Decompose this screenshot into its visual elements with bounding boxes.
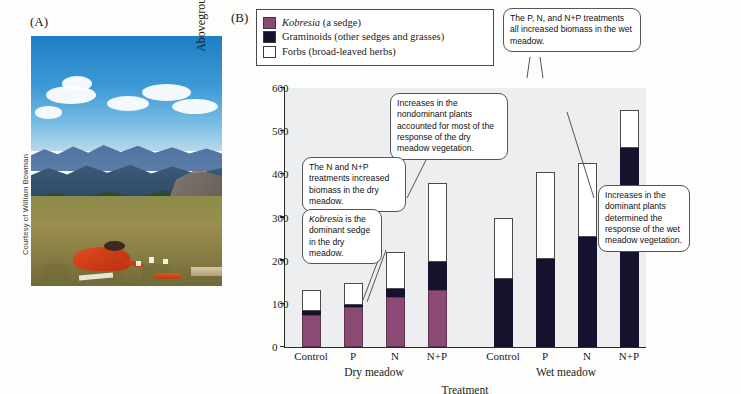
cloud-icon [142,84,192,102]
segment-forbs [494,218,513,280]
segment-kobresia [386,297,405,347]
x-axis-label: Treatment [442,384,489,394]
group-label-wet-meadow: Wet meadow [536,366,596,378]
segment-kobresia [302,315,321,347]
bar-dry-p [344,283,363,347]
panel-b-chart: (B) Kobresia (a sedge) Graminoids (other… [230,0,741,394]
legend-rest-kobresia: (a sedge) [320,17,361,28]
callout-kobresia-italic: Kobresia [309,214,343,224]
segment-forbs [428,183,447,262]
segment-graminoids [386,289,405,297]
x-axis-tick-label: N [583,350,591,362]
y-axis-tick-label: 600 [272,82,275,94]
cloud-icon [172,99,218,114]
bar-dry-nplusp [428,183,447,347]
legend-label-forbs: Forbs (broad-leaved herbs) [282,46,396,58]
segment-forbs [344,283,363,305]
legend-label-kobresia: Kobresia (a sedge) [282,17,361,29]
panel-a-label: (A) [30,14,48,30]
segment-kobresia [344,307,363,347]
segment-forbs [578,163,597,237]
segment-graminoids [578,237,597,347]
legend-italic-kobresia: Kobresia [282,17,320,28]
y-axis-tick-label: 0 [272,341,275,353]
x-axis-tick-label: P [542,350,548,362]
legend-item-forbs: Forbs (broad-leaved herbs) [263,46,487,58]
callout-wet-meadow-top-text: The P, N, and N+P treatments all increas… [510,13,632,46]
field-equipment-bag [153,273,182,279]
callout-dominant-plants-wet: Increases in the dominant plants determi… [598,185,690,252]
segment-graminoids [428,262,447,290]
bar-dry-control [302,290,321,347]
leader-wet-top-a [527,57,530,78]
callout-wet-meadow-top: The P, N, and N+P treatments all increas… [503,8,641,52]
legend-item-graminoids: Graminoids (other sedges and grasses) [263,31,487,43]
group-label-dry-meadow: Dry meadow [344,366,404,378]
callout-n-np-dry-meadow-text: The N and N+P treatments increased bioma… [309,162,389,206]
segment-forbs [620,110,639,148]
leader-wet-top-b [540,57,543,78]
researcher-head [104,241,125,251]
callout-dominant-plants-wet-text: Increases in the dominant plants determi… [605,190,682,245]
segment-forbs [302,290,321,311]
x-axis-tick-label: N+P [619,350,639,362]
plot-marker-flag [149,257,154,262]
y-axis-tick-label: 500 [272,125,275,137]
chart-legend: Kobresia (a sedge) Graminoids (other sed… [256,9,494,66]
y-axis-label: Aboveground biomass (g/m²) [194,0,209,96]
plot-marker-flag [163,259,168,264]
callout-nondominant-plants: Increases in the nondominant plants acco… [390,93,508,160]
legend-item-kobresia: Kobresia (a sedge) [263,17,487,29]
y-axis-tick-label: 200 [272,255,275,267]
bar-wet-control [494,218,513,348]
segment-graminoids [494,279,513,347]
segment-kobresia [428,290,447,347]
segment-forbs [536,172,555,258]
alpine-meadow-ground [31,196,222,286]
cloud-icon [35,106,62,119]
kobresia-swatch [263,17,276,29]
panel-b-label: (B) [231,10,248,26]
segment-graminoids [344,305,363,307]
y-axis-tick-label: 100 [272,298,275,310]
segment-graminoids [536,259,555,347]
x-axis-tick-label: P [350,350,356,362]
segment-forbs [386,252,405,288]
callout-n-np-dry-meadow: The N and N+P treatments increased bioma… [302,157,406,212]
graminoids-swatch [263,31,276,43]
y-axis-tick [280,346,285,347]
field-equipment-box [191,267,222,276]
x-axis-tick-label: Control [294,350,328,362]
legend-label-graminoids: Graminoids (other sedges and grasses) [282,31,444,43]
photo-credit: Courtesy of William Bowman [21,150,30,260]
callout-nondominant-plants-text: Increases in the nondominant plants acco… [397,98,494,153]
forbs-swatch [263,46,276,58]
segment-graminoids [302,311,321,314]
y-axis-tick-label: 400 [272,168,275,180]
grass-tuft [42,263,69,283]
cloud-icon [62,76,93,91]
bar-dry-n [386,252,405,347]
x-axis-tick-label: N [391,350,399,362]
plot-marker-flag [136,261,141,266]
bar-wet-p [536,172,555,347]
y-axis-tick-label: 300 [272,212,275,224]
callout-kobresia-dominant: Kobresia is the dominant sedge in the dr… [302,209,382,264]
x-axis-tick-label: N+P [427,350,447,362]
x-axis-tick-label: Control [486,350,520,362]
bar-wet-n [578,163,597,347]
